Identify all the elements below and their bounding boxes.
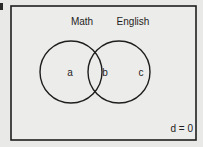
outside-region-note: d = 0	[170, 123, 193, 134]
region-b-label: b	[102, 67, 108, 78]
region-c-label: c	[139, 67, 144, 78]
english-label: English	[117, 16, 150, 27]
math-label: Math	[71, 16, 93, 27]
region-a-label: a	[67, 67, 73, 78]
venn-diagram: Math English a b c d = 0	[0, 0, 203, 147]
